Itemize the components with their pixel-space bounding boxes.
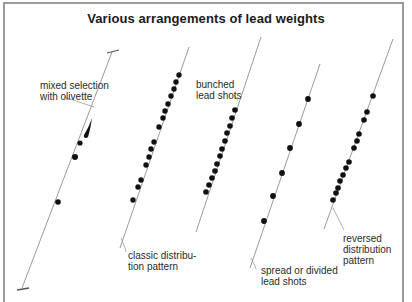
label-line: mixed selection [40,80,109,91]
label-mixed-selection: mixed selection with olivette [40,80,109,102]
label-bunched: bunched lead shots [196,79,242,101]
label-classic-distribution: classic distribu- tion pattern [128,250,196,272]
lead-shot-icon [77,140,82,145]
label-line: lead shots [196,90,242,101]
label-line: spread or divided [261,265,338,276]
line-reversed-distribution [324,39,393,230]
lead-shot-icon [72,154,78,160]
label-line: lead shots [261,276,307,287]
label-reversed-distribution: reversed distribution pattern [343,233,391,266]
label-line: distribution [343,244,391,255]
line-bunched [196,37,261,232]
label-line: tion pattern [128,261,178,272]
label-leader-line [333,208,344,230]
olivette-weight-icon [84,118,92,138]
line-classic-distribution [120,47,189,252]
bottom-stop-icon [17,288,29,290]
label-leader-line [121,238,126,252]
line-spread [250,64,320,269]
lead-shot-icon [55,199,61,205]
label-line: pattern [343,255,374,266]
label-line: with olivette [40,91,92,102]
label-line: classic distribu- [128,250,196,261]
label-spread: spread or divided lead shots [261,265,338,287]
top-stop-icon [107,50,119,53]
label-line: reversed [343,233,382,244]
label-line: bunched [196,79,234,90]
